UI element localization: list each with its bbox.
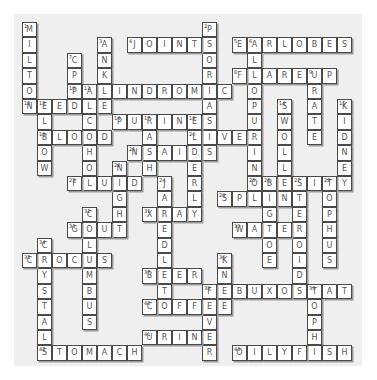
crossword-cell[interactable]: D (142, 84, 157, 99)
crossword-cell[interactable]: S (37, 284, 52, 299)
crossword-cell[interactable]: P (322, 207, 337, 222)
crossword-cell[interactable]: L (247, 191, 262, 206)
crossword-cell[interactable]: D (127, 176, 142, 191)
crossword-cell[interactable]: S (202, 114, 217, 129)
crossword-cell[interactable]: E (52, 99, 67, 114)
crossword-cell[interactable]: O (22, 84, 37, 99)
crossword-cell[interactable]: L (247, 53, 262, 68)
crossword-cell[interactable]: L (187, 191, 202, 206)
crossword-cell[interactable]: L (277, 145, 292, 160)
crossword-cell[interactable]: O (172, 84, 187, 99)
crossword-cell[interactable]: H (127, 345, 142, 360)
crossword-cell[interactable]: R (37, 253, 52, 268)
crossword-cell[interactable]: 32C (82, 207, 97, 222)
crossword-cell[interactable]: O (82, 222, 97, 237)
crossword-cell[interactable]: 23F (67, 176, 82, 191)
crossword-cell[interactable]: O (37, 145, 52, 160)
crossword-cell[interactable]: Y (187, 207, 202, 222)
crossword-cell[interactable]: L (277, 161, 292, 176)
crossword-cell[interactable]: 2P (202, 22, 217, 37)
crossword-cell[interactable]: L (97, 84, 112, 99)
crossword-cell[interactable]: S (322, 345, 337, 360)
crossword-cell[interactable]: E (292, 68, 307, 83)
crossword-cell[interactable]: N (172, 114, 187, 129)
crossword-cell[interactable]: 1M (22, 22, 37, 37)
crossword-cell[interactable]: E (277, 222, 292, 237)
crossword-cell[interactable]: M (82, 268, 97, 283)
crossword-cell[interactable]: E (217, 284, 232, 299)
crossword-cell[interactable]: I (112, 84, 127, 99)
crossword-cell[interactable]: E (202, 299, 217, 314)
crossword-cell[interactable]: 40C (142, 299, 157, 314)
crossword-cell[interactable]: I (157, 37, 172, 52)
crossword-cell[interactable]: T (307, 114, 322, 129)
crossword-cell[interactable]: 43O (232, 345, 247, 360)
crossword-cell[interactable]: O (262, 238, 277, 253)
crossword-cell[interactable]: V (202, 315, 217, 330)
crossword-cell[interactable]: N (97, 53, 112, 68)
crossword-cell[interactable]: B (82, 284, 97, 299)
crossword-cell[interactable]: H (322, 222, 337, 237)
crossword-cell[interactable]: E (307, 130, 322, 145)
crossword-cell[interactable]: E (262, 253, 277, 268)
crossword-cell[interactable]: O (322, 191, 337, 206)
crossword-cell[interactable]: R (157, 330, 172, 345)
crossword-cell[interactable]: 25O (247, 176, 262, 191)
crossword-cell[interactable]: 28T (322, 176, 337, 191)
crossword-cell[interactable]: L (37, 330, 52, 345)
crossword-cell[interactable]: I (307, 176, 322, 191)
crossword-cell[interactable]: O (307, 299, 322, 314)
crossword-cell[interactable]: R (157, 84, 172, 99)
crossword-cell[interactable]: D (97, 130, 112, 145)
crossword-cell[interactable]: S (82, 315, 97, 330)
crossword-cell[interactable]: U (82, 299, 97, 314)
crossword-cell[interactable]: C (112, 345, 127, 360)
crossword-cell[interactable]: M (82, 345, 97, 360)
crossword-cell[interactable]: A (322, 284, 337, 299)
crossword-cell[interactable]: L (37, 114, 52, 129)
crossword-cell[interactable]: 37B (142, 268, 157, 283)
crossword-cell[interactable]: H (337, 345, 352, 360)
crossword-cell[interactable]: B (232, 284, 247, 299)
crossword-cell[interactable]: 17R (142, 114, 157, 129)
crossword-cell[interactable]: S (202, 145, 217, 160)
crossword-cell[interactable]: I (172, 330, 187, 345)
crossword-cell[interactable]: I (202, 84, 217, 99)
crossword-cell[interactable]: R (277, 68, 292, 83)
crossword-cell[interactable]: D (157, 238, 172, 253)
crossword-cell[interactable]: N (247, 161, 262, 176)
crossword-cell[interactable]: R (247, 130, 262, 145)
crossword-cell[interactable]: I (247, 345, 262, 360)
crossword-cell[interactable]: I (22, 37, 37, 52)
crossword-cell[interactable]: E (322, 37, 337, 52)
crossword-cell[interactable]: I (337, 114, 352, 129)
crossword-cell[interactable]: 27S (292, 176, 307, 191)
crossword-cell[interactable]: N (217, 268, 232, 283)
crossword-cell[interactable]: P (247, 99, 262, 114)
crossword-cell[interactable]: P (322, 68, 337, 83)
crossword-cell[interactable]: 8F (232, 68, 247, 83)
crossword-cell[interactable]: O (157, 299, 172, 314)
crossword-cell[interactable]: E (292, 207, 307, 222)
crossword-cell[interactable]: 29S (217, 191, 232, 206)
crossword-cell[interactable]: S (97, 253, 112, 268)
crossword-cell[interactable]: E (232, 130, 247, 145)
crossword-cell[interactable]: U (97, 222, 112, 237)
crossword-cell[interactable]: R (307, 84, 322, 99)
crossword-cell[interactable]: I (292, 253, 307, 268)
crossword-cell[interactable]: D (337, 130, 352, 145)
crossword-cell[interactable]: H (112, 207, 127, 222)
crossword-cell[interactable]: A (307, 99, 322, 114)
crossword-cell[interactable]: E (97, 99, 112, 114)
crossword-cell[interactable]: R (292, 222, 307, 237)
crossword-cell[interactable]: O (142, 37, 157, 52)
crossword-cell[interactable]: D (292, 268, 307, 283)
crossword-cell[interactable]: T (37, 299, 52, 314)
crossword-cell[interactable]: L (157, 253, 172, 268)
crossword-cell[interactable]: 13E (37, 99, 52, 114)
crossword-cell[interactable]: R (187, 268, 202, 283)
crossword-cell[interactable]: O (292, 37, 307, 52)
crossword-cell[interactable]: 21N (127, 145, 142, 160)
crossword-cell[interactable]: I (307, 345, 322, 360)
crossword-cell[interactable]: R (202, 345, 217, 360)
